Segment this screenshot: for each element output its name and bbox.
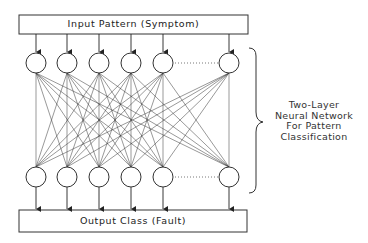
output-layer-node	[57, 167, 77, 187]
annotation-line-4: Classification	[268, 132, 360, 143]
weight-connections	[36, 73, 229, 167]
input-layer-node	[153, 53, 173, 73]
output-layer-node	[153, 167, 173, 187]
input-layer-node	[121, 53, 141, 73]
input-layer-node	[219, 53, 239, 73]
input-pattern-label: Input Pattern (Symptom)	[19, 18, 248, 29]
input-layer-node	[26, 53, 46, 73]
annotation-line-1: Two-Layer	[268, 100, 360, 111]
output-layer-node	[219, 167, 239, 187]
output-layer-node	[89, 167, 109, 187]
output-layer-node	[26, 167, 46, 187]
input-layer-node	[57, 53, 77, 73]
output-class-label: Output Class (Fault)	[19, 215, 247, 226]
network-annotation: Two-Layer Neural Network For Pattern Cla…	[268, 100, 360, 142]
output-layer-node	[121, 167, 141, 187]
input-layer-node	[89, 53, 109, 73]
curly-brace	[249, 48, 263, 193]
